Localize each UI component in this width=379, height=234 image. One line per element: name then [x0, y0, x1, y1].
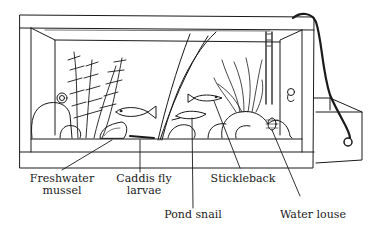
stickleback — [188, 94, 222, 102]
water-louse — [266, 118, 278, 130]
fish-left — [116, 106, 156, 118]
glass-snail — [287, 89, 294, 102]
freshwater-mussel — [100, 122, 127, 138]
label-water-louse: Water louse — [280, 209, 346, 221]
aquarium-illustration — [0, 0, 379, 234]
ramshorn-snail — [57, 93, 67, 103]
label-caddis-fly-larvae: Caddis fly larvae — [114, 173, 174, 197]
tank-frame — [20, 15, 314, 168]
label-stickleback: Stickleback — [210, 173, 276, 185]
caddis-fly-larvae — [130, 136, 154, 138]
vallisneria-plant — [214, 58, 263, 112]
hornwort-plant — [68, 52, 126, 138]
label-pond-snail: Pond snail — [162, 209, 224, 221]
pond-snail — [172, 111, 206, 120]
filter-box — [314, 98, 362, 163]
heater-tube — [266, 32, 272, 104]
label-freshwater-mussel: Freshwater mussel — [22, 173, 102, 197]
reeds — [158, 32, 216, 140]
